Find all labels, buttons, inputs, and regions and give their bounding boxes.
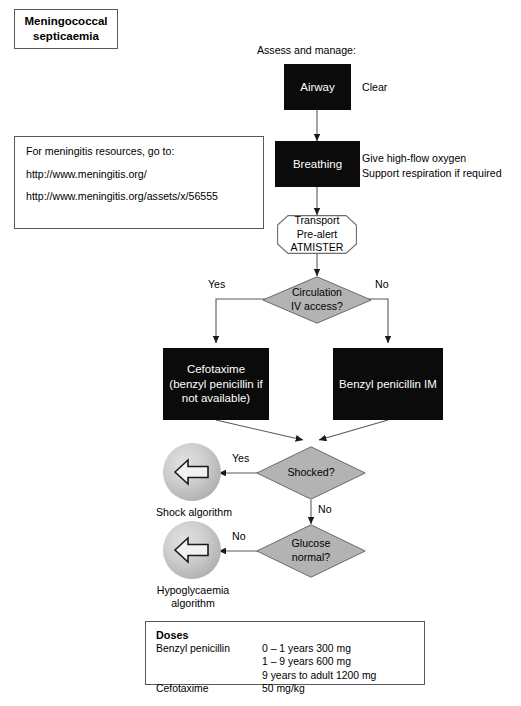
decision-glucose-text: Glucose normal? (256, 524, 366, 578)
circulation-branch-yes-label: Yes (208, 278, 225, 291)
dose-row-values: 0 – 1 years 300 mg 1 – 9 years 600 mg 9 … (262, 642, 414, 682)
step-breathing: Breathing (275, 141, 360, 187)
transport-line-3: ATMISTER (291, 241, 344, 254)
decision-glucose: Glucose normal? (256, 524, 366, 578)
dose-value: 0 – 1 years 300 mg (262, 642, 414, 655)
dose-row-values: 50 mg/kg (262, 682, 414, 695)
dose-value: 50 mg/kg (262, 682, 414, 695)
step-transport-text: Transport Pre-alert ATMISTER (277, 215, 357, 254)
shocked-branch-no-label: No (318, 503, 332, 516)
resources-intro: For meningitis resources, go to: (26, 146, 252, 158)
assess-and-manage-label: Assess and manage: (257, 44, 356, 57)
resources-box: For meningitis resources, go to: http://… (14, 136, 264, 229)
airway-note: Clear (362, 81, 387, 94)
exit-hypoglycaemia-algorithm[interactable] (163, 521, 221, 579)
breathing-note-oxygen: Give high-flow oxygen (362, 152, 466, 165)
shocked-label: Shocked? (287, 466, 334, 480)
shocked-branch-yes-label: Yes (232, 452, 249, 465)
transport-line-1: Transport (291, 214, 344, 227)
step-airway: Airway (284, 64, 351, 110)
glucose-line-2: normal? (292, 551, 331, 565)
shock-algorithm-label: Shock algorithm (156, 506, 232, 519)
dose-row-name: Cefotaxime (156, 682, 262, 695)
treatment-cefotaxime: Cefotaxime (benzyl penicillin if not ava… (163, 348, 269, 420)
glucose-line-1: Glucose (292, 537, 331, 551)
decision-shocked-text: Shocked? (256, 446, 366, 500)
page-title-box: Meningococcal septicaemia (14, 9, 118, 49)
dose-value: 9 years to adult 1200 mg (262, 669, 414, 682)
dose-value: 1 – 9 years 600 mg (262, 655, 414, 668)
doses-heading: Doses (156, 629, 414, 641)
hypo-label-line-1: Hypoglycaemia (145, 584, 241, 597)
hypo-label-line-2: algorithm (145, 597, 241, 610)
resources-link-assets[interactable]: http://www.meningitis.org/assets/x/56555 (26, 191, 252, 203)
decision-circulation: Circulation IV access? (262, 276, 372, 324)
hypoglycaemia-algorithm-label: Hypoglycaemia algorithm (145, 584, 241, 610)
step-airway-label: Airway (300, 80, 335, 95)
decision-circulation-text: Circulation IV access? (262, 276, 372, 324)
circulation-branch-no-label: No (375, 278, 389, 291)
circulation-line-1: Circulation (291, 286, 343, 300)
exit-shock-algorithm[interactable] (163, 443, 221, 501)
transport-line-2: Pre-alert (291, 228, 344, 241)
treatment-benzyl-penicillin-im: Benzyl penicillin IM (333, 348, 443, 420)
decision-shocked: Shocked? (256, 446, 366, 500)
glucose-branch-no-label: No (232, 530, 246, 543)
flowchart-page: Meningococcal septicaemia For meningitis… (0, 0, 521, 706)
dose-row-name: Benzyl penicillin (156, 642, 262, 682)
doses-panel: Doses Benzyl penicillin 0 – 1 years 300 … (145, 621, 425, 685)
benzyl-im-label: Benzyl penicillin IM (339, 377, 437, 392)
cefotaxime-line-3: not available) (169, 391, 262, 406)
resources-link-main[interactable]: http://www.meningitis.org/ (26, 169, 252, 181)
breathing-note-respiration: Support respiration if required (362, 167, 502, 180)
cefotaxime-line-2: (benzyl penicillin if (169, 377, 262, 392)
step-transport: Transport Pre-alert ATMISTER (277, 215, 357, 254)
circulation-line-2: IV access? (291, 300, 343, 314)
doses-table: Benzyl penicillin 0 – 1 years 300 mg 1 –… (156, 642, 414, 695)
cefotaxime-line-1: Cefotaxime (169, 362, 262, 377)
page-title: Meningococcal septicaemia (22, 14, 110, 43)
step-breathing-label: Breathing (293, 157, 342, 172)
